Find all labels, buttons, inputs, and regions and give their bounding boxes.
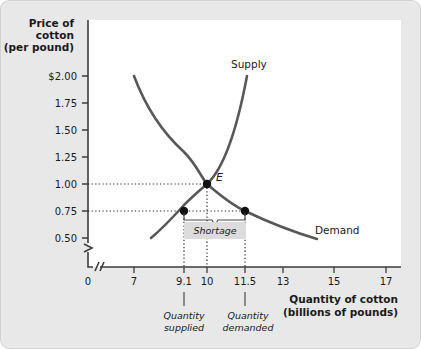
x-axis-origin-label: 0 — [85, 276, 91, 287]
y-axis-title-line3: (per pound) — [4, 41, 74, 53]
y-tick-label-1-25: 1.25 — [55, 152, 77, 163]
demand-curve-label: Demand — [315, 224, 360, 236]
y-tick-label-2-00: $2.00 — [48, 71, 77, 82]
x-axis-title-line1: Quantity of cotton — [289, 293, 398, 305]
x-tick-label-11-5: 11.5 — [234, 276, 256, 287]
y-tick-marks — [82, 76, 88, 238]
supply-demand-chart: Price of cotton (per pound) $2.00 1.75 1… — [0, 0, 421, 349]
y-tick-label-0-75: 0.75 — [55, 206, 77, 217]
y-tick-label-1-75: 1.75 — [55, 98, 77, 109]
x-tick-label-17: 17 — [380, 276, 393, 287]
x-tick-label-7: 7 — [131, 276, 137, 287]
supply-curve-label: Supply — [231, 58, 267, 70]
shortage-label: Shortage — [193, 225, 236, 236]
quantity-supplied-label-line1: Quantity — [163, 310, 204, 321]
x-tick-label-10: 10 — [201, 276, 214, 287]
quantity-supplied-label-line2: supplied — [164, 322, 205, 333]
y-tick-label-1-50: 1.50 — [55, 125, 77, 136]
x-axis-title-line2: (billions of pounds) — [283, 306, 398, 318]
y-axis-title-line1: Price of — [29, 17, 75, 29]
y-tick-label-1-00: 1.00 — [55, 179, 77, 190]
quantity-demanded-label-line1: Quantity — [227, 310, 268, 321]
x-tick-label-9-1: 9.1 — [176, 276, 192, 287]
figure-container: Price of cotton (per pound) $2.00 1.75 1… — [0, 0, 421, 349]
y-axis-title-line2: cotton — [36, 29, 74, 41]
x-tick-marks — [134, 267, 386, 273]
y-tick-label-0-50: 0.50 — [55, 233, 77, 244]
equilibrium-point-marker — [203, 180, 211, 188]
x-tick-label-15: 15 — [328, 276, 341, 287]
quantity-demanded-label-line2: demanded — [223, 322, 275, 333]
x-tick-label-13: 13 — [277, 276, 290, 287]
equilibrium-label: E — [216, 171, 223, 184]
